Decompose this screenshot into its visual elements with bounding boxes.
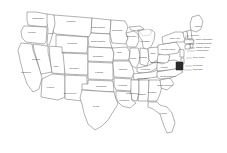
state-oregon[interactable]	[21, 26, 47, 44]
state-maryland[interactable]	[176, 62, 183, 70]
state-connecticut[interactable]	[185, 44, 190, 49]
state-wisconsin[interactable]	[126, 31, 139, 47]
state-shapes	[18, 12, 203, 133]
state-massachusetts[interactable]	[184, 39, 194, 44]
state-label-wyoming: Wyoming	[67, 42, 77, 44]
state-label-new-jersey: New Jersey	[193, 56, 206, 58]
us-map-svg: WashingtonOregonCaliforniaNevadaIdahoMon…	[0, 0, 227, 153]
state-label-wisconsin: Wisconsin	[126, 35, 137, 37]
state-label-arizona: Arizona	[46, 86, 55, 88]
state-label-rhode-island: Rhode Island	[196, 46, 210, 48]
state-label-oregon: Oregon	[28, 31, 36, 33]
state-label-delaware: Delaware	[193, 64, 204, 66]
state-label-tennessee: Tennessee	[137, 77, 149, 79]
state-label-indiana: Indiana	[139, 56, 147, 58]
state-iowa[interactable]	[112, 47, 130, 60]
state-label-illinois: Illinois	[130, 57, 137, 59]
state-mississippi[interactable]	[131, 80, 139, 101]
state-texas[interactable]	[80, 90, 118, 130]
state-label-north-dakota: North Dakota	[91, 26, 105, 28]
state-label-texas: Texas	[93, 105, 100, 107]
state-label-georgia: Georgia	[148, 91, 157, 93]
state-label-washington: Washington	[32, 17, 45, 19]
state-label-utah: Utah	[54, 65, 60, 67]
state-colorado[interactable]	[63, 53, 88, 75]
state-label-louisiana: Louisiana	[119, 99, 130, 101]
state-label-vermont: Vermont	[190, 34, 199, 36]
state-montana[interactable]	[53, 15, 92, 37]
state-label-new-mexico: New Mexico	[64, 92, 77, 94]
state-label-alabama: Alabama	[136, 93, 146, 95]
state-label-arkansas: Arkansas	[117, 84, 128, 86]
state-label-colorado: Colorado	[69, 67, 79, 69]
state-label-ohio: Ohio	[151, 52, 157, 54]
state-maine[interactable]	[190, 15, 203, 32]
state-label-south-dakota: South Dakota	[91, 40, 106, 42]
state-label-florida: Florida	[159, 112, 167, 114]
state-label-maine: Maine	[195, 25, 202, 27]
state-label-pennsylvania: Pennsylvania	[161, 48, 176, 50]
state-label-idaho: Idaho	[48, 32, 55, 34]
state-label-virginia: Virginia	[160, 66, 168, 68]
state-label-kentucky: Kentucky	[141, 68, 151, 70]
state-label-connecticut: Connecticut	[196, 49, 209, 51]
state-rhode-island[interactable]	[190, 44, 193, 48]
state-label-missouri: Missouri	[119, 68, 128, 70]
state-label-nebraska: Nebraska	[93, 55, 104, 57]
state-label-nevada: Nevada	[32, 58, 41, 60]
state-label-south-carolina: South Carolina	[157, 84, 173, 86]
state-label-california: California	[21, 71, 32, 73]
state-label-new-hampshire: New Hampshire	[196, 38, 213, 40]
state-label-west-virginia: West Virginia	[150, 61, 164, 63]
state-label-new-york: New York	[170, 37, 181, 39]
state-label-oklahoma: Oklahoma	[96, 85, 107, 87]
state-label-maryland: Maryland	[193, 68, 203, 70]
state-label-minnesota: Minnesota	[112, 29, 123, 31]
state-florida[interactable]	[148, 102, 175, 133]
state-label-montana: Montana	[66, 20, 76, 22]
state-minnesota[interactable]	[110, 20, 128, 44]
us-map-container: WashingtonOregonCaliforniaNevadaIdahoMon…	[0, 0, 227, 153]
state-label-massachusetts: Massachusetts	[196, 42, 212, 44]
state-new-jersey[interactable]	[180, 49, 184, 57]
state-label-north-carolina: North Carolina	[160, 75, 176, 77]
state-label-michigan: Michigan	[140, 40, 150, 42]
state-label-kansas: Kansas	[95, 71, 104, 73]
state-washington[interactable]	[27, 12, 49, 27]
state-label-iowa: Iowa	[117, 51, 123, 53]
